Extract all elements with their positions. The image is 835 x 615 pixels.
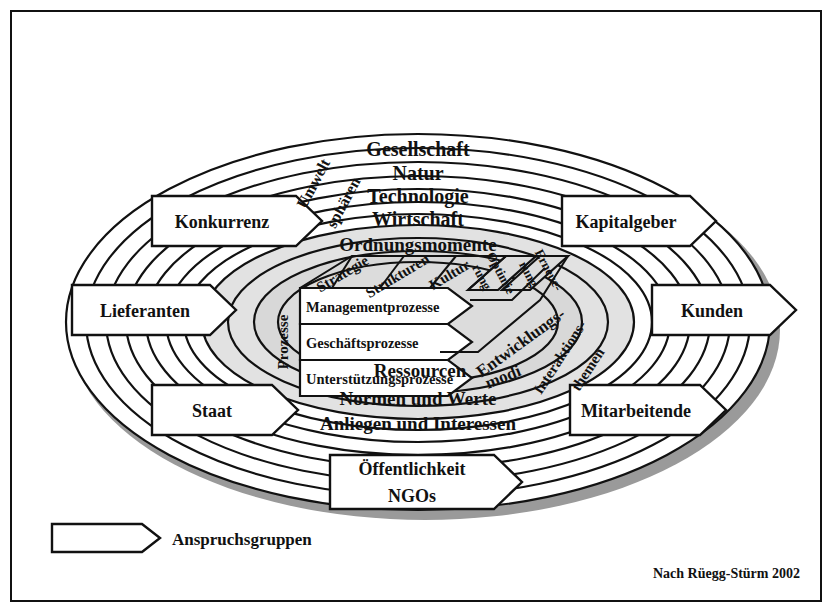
label-kunden: Kunden xyxy=(681,301,743,321)
diagram-stage: Gesellschaft Natur Technologie Wirtschaf… xyxy=(0,0,835,615)
label-ngos: NGOs xyxy=(388,486,436,506)
label-oeffentlichkeit: Öffentlichkeit xyxy=(359,459,466,479)
label-natur: Natur xyxy=(392,162,443,184)
label-mitarbeitende: Mitarbeitende xyxy=(581,401,691,421)
legend-arrow-icon xyxy=(52,524,160,552)
label-kapitalgeber: Kapitalgeber xyxy=(576,212,677,232)
label-managementprozesse: Managementprozesse xyxy=(306,299,440,315)
label-gesellschaft: Gesellschaft xyxy=(366,138,470,160)
label-staat: Staat xyxy=(192,401,232,421)
label-geschaeftsprozesse: Geschäftsprozesse xyxy=(306,335,419,351)
label-normen-und-werte: Normen und Werte xyxy=(340,388,497,409)
label-ordnungsmomente: Ordnungsmomente xyxy=(339,234,496,255)
legend-label: Anspruchsgruppen xyxy=(172,530,312,549)
management-model-diagram: Gesellschaft Natur Technologie Wirtschaf… xyxy=(0,0,835,615)
label-konkurrenz: Konkurrenz xyxy=(175,212,270,232)
label-lieferanten: Lieferanten xyxy=(100,301,190,321)
label-technologie: Technologie xyxy=(367,185,469,208)
label-ressourcen: Ressourcen xyxy=(374,360,467,381)
legend: Anspruchsgruppen xyxy=(52,524,312,552)
label-prozesse: Prozesse xyxy=(275,314,291,369)
attribution: Nach Rüegg-Stürm 2002 xyxy=(653,566,800,581)
label-wirtschaft: Wirtschaft xyxy=(372,208,464,230)
label-anliegen-und-interessen: Anliegen und Interessen xyxy=(320,413,516,434)
